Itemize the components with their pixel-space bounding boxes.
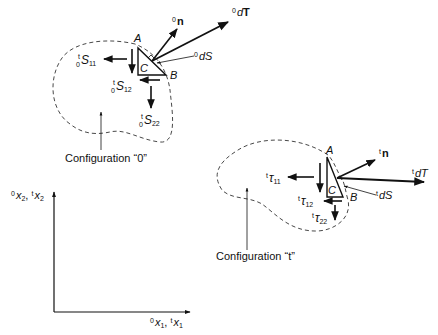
coordinate-axes: 0x2, tx2 0x1, tx1	[11, 189, 190, 329]
normal-label-0: 0n	[172, 15, 184, 27]
area-label-0: 0dS	[194, 50, 213, 62]
y-axis-label: 0x2, tx2	[11, 189, 44, 202]
stress-label-tau11: tτ11	[266, 171, 281, 185]
config-0-label: Configuration “0”	[65, 152, 147, 164]
area-label-t: tdS	[376, 189, 393, 201]
point-A-t: A	[325, 144, 333, 156]
traction-label-0: 0dT	[232, 6, 250, 18]
traction-arrow-0	[152, 22, 228, 61]
normal-arrow-0	[152, 29, 177, 61]
traction-arrow-t	[337, 178, 424, 182]
continuum-mechanics-diagram: A B C 0n 0dT 0dS t0S11 t0S12 t0S22 Confi…	[0, 0, 438, 335]
x-axis-label: 0x1, tx1	[150, 316, 183, 329]
point-C-0: C	[140, 62, 148, 74]
configuration-0: A B C 0n 0dT 0dS t0S11 t0S12 t0S22 Confi…	[53, 6, 250, 164]
area-leader-t	[344, 186, 376, 195]
point-A-0: A	[133, 32, 141, 44]
stress-label-S22: t0S22	[139, 113, 160, 128]
point-C-t: C	[328, 184, 336, 196]
point-B-0: B	[170, 69, 177, 81]
traction-label-t: tdT	[412, 167, 429, 179]
normal-arrow-t	[337, 160, 375, 178]
stress-label-S11: t0S11	[76, 53, 96, 68]
stress-label-S12: t0S12	[111, 79, 132, 94]
stress-label-tau22: tτ22	[312, 211, 327, 225]
normal-label-t: tn	[379, 147, 389, 159]
configuration-t: A B C tn tdT tdS tτ11 tτ12 tτ22 Configur…	[216, 140, 429, 262]
stress-label-tau12: tτ12	[298, 194, 313, 208]
area-leader-0	[157, 56, 194, 63]
point-B-t: B	[350, 191, 357, 203]
config-t-label: Configuration “t”	[216, 250, 295, 262]
